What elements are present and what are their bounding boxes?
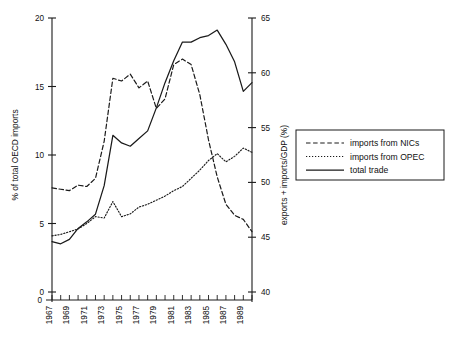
series-group bbox=[52, 30, 252, 244]
x-axis-tick-label: 1981 bbox=[167, 306, 176, 325]
right-axis-tick-label: 40 bbox=[261, 288, 271, 297]
x-axis-tick-label: 1989 bbox=[236, 306, 245, 325]
right-axis-tick-label: 55 bbox=[261, 124, 271, 133]
trade-line-chart: 05101520% of total OECD imports404550556… bbox=[0, 0, 452, 354]
x-axis-tick-label: 1973 bbox=[97, 306, 106, 325]
left-axis-title: % of total OECD imports bbox=[10, 109, 20, 200]
series-line-imports-from-nics bbox=[52, 59, 252, 232]
left-axis-tick-label: 15 bbox=[35, 83, 45, 92]
x-axis-tick-label: 1987 bbox=[219, 306, 228, 325]
right-axis-tick-label: 50 bbox=[261, 178, 271, 187]
legend-label: total trade bbox=[350, 165, 388, 175]
x-axis-tick-label: 1977 bbox=[132, 306, 141, 325]
x-axis-tick-label: 1967 bbox=[45, 306, 54, 325]
right-axis-title: exports + imports/GDP (%) bbox=[279, 125, 289, 225]
left-axis-tick-label: 10 bbox=[35, 151, 45, 160]
right-axis-tick-label: 45 bbox=[261, 233, 271, 242]
legend-group: imports from NICsimports from OPECtotal … bbox=[296, 130, 444, 180]
chart-page: 05101520% of total OECD imports404550556… bbox=[0, 0, 452, 354]
x-axis-tick-label: 1985 bbox=[202, 306, 211, 325]
legend-label: imports from OPEC bbox=[350, 152, 425, 162]
left-axis-tick-label: 20 bbox=[35, 14, 45, 23]
legend-label: imports from NICs bbox=[350, 138, 419, 148]
x-axis-tick-label: 1971 bbox=[80, 306, 89, 325]
series-line-total-trade bbox=[52, 30, 252, 244]
x-axis-tick-label: 1969 bbox=[62, 306, 71, 325]
right-axis-tick-label: 60 bbox=[261, 69, 271, 78]
x-axis-tick-label: 1975 bbox=[115, 306, 124, 325]
x-axis-tick-label: 1983 bbox=[184, 306, 193, 325]
right-axis-tick-label: 65 bbox=[261, 14, 271, 23]
left-axis-tick-label: 5 bbox=[39, 220, 44, 229]
x-axis-tick-label: 1979 bbox=[149, 306, 158, 325]
x-axis-zero-label: 0 bbox=[37, 296, 42, 305]
axes-group: 05101520% of total OECD imports404550556… bbox=[10, 14, 289, 324]
